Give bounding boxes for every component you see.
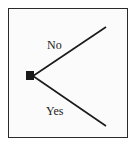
branch-line-no	[33, 27, 106, 76]
branch-label-no: No	[47, 38, 62, 52]
branch-line-yes	[33, 76, 106, 126]
decision-tree: No Yes	[0, 0, 135, 149]
decision-node-square	[26, 71, 34, 80]
branch-label-yes: Yes	[46, 104, 64, 118]
